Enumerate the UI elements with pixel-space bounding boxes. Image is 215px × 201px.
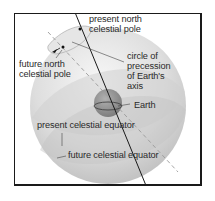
label-present-equator: present celestial equator <box>37 120 135 130</box>
present-pole-dot <box>79 28 82 31</box>
label-precession-circle: circle of precession of Earth's axis <box>127 51 170 91</box>
future-pole-dot <box>62 46 65 49</box>
label-present-north-pole: present north celestial pole <box>89 14 142 34</box>
label-future-equator: future celestial equator <box>68 150 159 160</box>
label-future-north-pole: future north celestial pole <box>19 59 71 79</box>
label-earth: Earth <box>134 100 155 110</box>
